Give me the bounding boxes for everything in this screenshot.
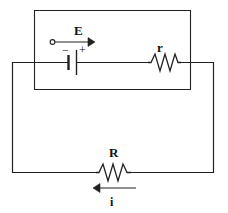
battery-symbol xyxy=(69,50,77,75)
current-direction-arrow-group xyxy=(93,184,136,193)
emf-arrow-origin-circle xyxy=(50,40,55,45)
current-label: i xyxy=(110,196,113,208)
circuit-diagram-figure: E − + r R i xyxy=(0,0,228,213)
internal-resistance-label: r xyxy=(157,41,163,54)
emf-arrow-head xyxy=(88,38,95,47)
circuit-schematic-canvas xyxy=(0,0,228,213)
load-resistance-label: R xyxy=(109,146,118,159)
battery-negative-label: − xyxy=(62,44,69,56)
battery-positive-label: + xyxy=(79,44,86,56)
resistor-R-path xyxy=(96,164,131,181)
emf-label: E xyxy=(74,24,83,37)
inner-loop-wires xyxy=(34,10,191,90)
emf-direction-arrow-group xyxy=(50,38,95,47)
current-arrow-head xyxy=(93,184,100,193)
resistor-R-zigzag xyxy=(96,164,131,181)
resistor-r-zigzag xyxy=(148,54,181,71)
resistor-r-path xyxy=(148,54,181,71)
